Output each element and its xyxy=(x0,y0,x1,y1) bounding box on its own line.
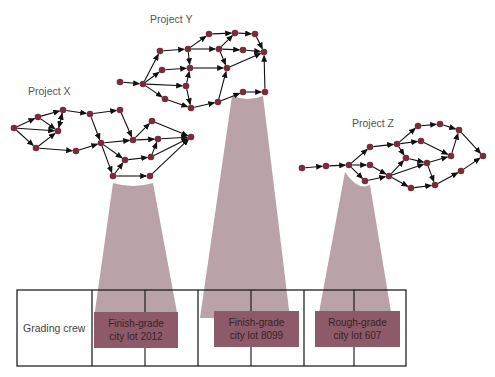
network-arrow xyxy=(41,119,55,129)
resource-scheduling-diagram: Project X Project Y Project Z Grading cr… xyxy=(0,0,495,377)
network-arrow xyxy=(352,149,368,162)
network-arrow xyxy=(256,37,262,49)
network-node xyxy=(346,162,353,169)
resource-beam-1 xyxy=(200,96,290,318)
network-node xyxy=(216,46,223,53)
network-arrow xyxy=(351,167,362,178)
network-node xyxy=(117,107,124,114)
network-arrow xyxy=(79,144,97,150)
network-arrow xyxy=(93,111,116,114)
network-node xyxy=(240,47,247,54)
network-arrow xyxy=(16,130,33,145)
network-node xyxy=(157,48,164,55)
network-node xyxy=(60,107,67,114)
network-node xyxy=(367,144,374,151)
network-arrow xyxy=(188,52,189,64)
grading-crew-label: Grading crew xyxy=(23,322,85,334)
network-node xyxy=(206,31,213,38)
network-node xyxy=(122,157,129,164)
network-arrow xyxy=(128,157,147,159)
task-line1: Finish-grade xyxy=(229,316,285,329)
network-node xyxy=(424,160,431,167)
resource-beam-0 xyxy=(94,183,178,318)
network-node xyxy=(432,182,439,189)
network-node xyxy=(367,162,374,169)
network-arrow xyxy=(400,141,417,143)
network-arrow xyxy=(452,134,458,153)
network-arrow xyxy=(146,84,182,86)
network-node xyxy=(188,105,195,112)
network-node xyxy=(33,145,40,152)
project-z-label: Project Z xyxy=(352,117,394,129)
network-arrow xyxy=(163,49,184,50)
network-node xyxy=(11,125,18,132)
network-node xyxy=(183,83,190,90)
network-node xyxy=(98,140,105,147)
task-line2: city lot 2012 xyxy=(108,330,164,343)
network-arrow xyxy=(115,163,123,173)
network-node xyxy=(252,31,259,38)
network-arrow xyxy=(161,137,187,139)
network-arrow xyxy=(373,167,386,174)
network-arrow xyxy=(152,143,156,154)
resource-beams xyxy=(94,96,392,318)
network-arrow xyxy=(104,145,122,158)
network-node xyxy=(386,173,393,180)
network-node xyxy=(299,165,306,172)
network-arrow xyxy=(152,140,188,174)
network-arrow xyxy=(399,147,404,155)
task-line2: city lot 8099 xyxy=(229,329,285,342)
network-arrow xyxy=(230,54,260,67)
network-node xyxy=(159,67,166,74)
network-arrow xyxy=(424,142,448,154)
network-node xyxy=(130,137,137,144)
network-arrow xyxy=(155,122,187,135)
network-node xyxy=(362,178,369,185)
network-arrow xyxy=(91,117,99,139)
network-arrow xyxy=(368,177,385,181)
network-arrow xyxy=(136,139,154,140)
network-arrow xyxy=(392,164,423,175)
network-node xyxy=(403,155,410,162)
network-node xyxy=(437,121,444,128)
network-arrow xyxy=(168,100,187,107)
network-arrow xyxy=(146,86,162,97)
network-node xyxy=(323,163,330,170)
network-node xyxy=(149,118,156,125)
network-arrow xyxy=(414,185,431,187)
network-arrow xyxy=(17,119,35,127)
network-node xyxy=(148,154,155,161)
network-arrow xyxy=(246,50,260,51)
network-arrow xyxy=(221,36,232,47)
resource-beam-2 xyxy=(318,172,392,318)
network-node xyxy=(35,114,42,121)
network-arrow xyxy=(123,82,139,83)
network-arrow xyxy=(428,166,434,181)
network-node xyxy=(188,134,195,141)
network-node xyxy=(408,185,415,192)
network-arrow xyxy=(443,125,455,129)
network-arrow xyxy=(39,133,55,146)
network-node xyxy=(117,79,124,86)
network-arrow xyxy=(392,178,408,187)
network-arrow xyxy=(41,111,59,116)
network-arrow xyxy=(421,124,436,125)
project-x-label: Project X xyxy=(28,85,71,97)
network-arrow xyxy=(400,128,416,141)
network-node xyxy=(87,111,94,118)
network-arrow xyxy=(59,114,62,128)
network-node xyxy=(232,30,239,37)
network-node xyxy=(155,136,162,143)
network-node xyxy=(162,96,169,103)
network-arrow xyxy=(264,56,265,89)
network-node xyxy=(140,81,147,88)
task-finish-grade-2012: Finish-grade city lot 2012 xyxy=(94,312,178,348)
network-arrow xyxy=(373,144,393,146)
network-arrow xyxy=(187,72,189,83)
network-arrow xyxy=(461,132,480,153)
network-arrow xyxy=(135,124,149,138)
network-arrow xyxy=(212,33,231,34)
network-node xyxy=(110,173,117,180)
task-line2: city lot 607 xyxy=(328,329,386,342)
network-arrow xyxy=(39,148,72,150)
